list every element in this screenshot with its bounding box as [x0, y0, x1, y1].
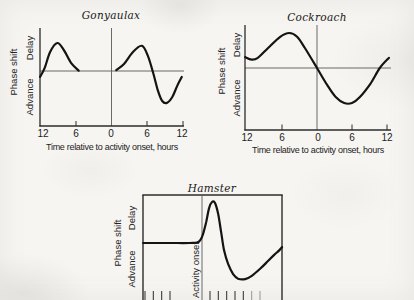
y-axis-label: Phase shift: [216, 48, 227, 95]
hamster-curve: [143, 201, 282, 279]
x-tick-label: 12: [176, 128, 187, 139]
chart-title: Hamster: [188, 182, 236, 194]
panel-gonyaulax: Gonyaulax Phase shift Delay Advance 12 6…: [0, 0, 207, 160]
advance-label: Advance: [126, 251, 137, 288]
x-axis-label: Time relative to activity onset, hours: [252, 145, 384, 155]
phase-response-figure: Gonyaulax Phase shift Delay Advance 12 6…: [0, 0, 414, 300]
gonyaulax-curve: [40, 43, 182, 103]
x-tick-label: 12: [241, 132, 252, 143]
delay-label: Delay: [231, 33, 242, 57]
x-tick-label: 6: [73, 128, 79, 139]
y-axis-label: Phase shift: [112, 220, 123, 267]
x-tick-label: 12: [381, 132, 392, 143]
x-tick-label: 0: [315, 132, 321, 143]
x-tick-label: 6: [144, 128, 150, 139]
activity-onset-label: Activity onset: [190, 242, 201, 298]
chart-title: Gonyaulax: [82, 9, 141, 21]
x-tick-label: 12: [37, 128, 48, 139]
panel-cockroach: Cockroach Phase shift Delay Advance 12 6…: [207, 0, 414, 160]
x-tick-label: 0: [108, 128, 114, 139]
delay-label: Delay: [126, 206, 137, 230]
delay-label: Delay: [24, 36, 35, 60]
y-axis-label: Phase shift: [8, 49, 19, 96]
chart-title: Cockroach: [287, 11, 347, 23]
advance-label: Advance: [24, 79, 35, 116]
x-tick-label: 6: [349, 132, 355, 143]
advance-label: Advance: [231, 80, 242, 117]
x-axis-label: Time relative to activity onset, hours: [46, 142, 178, 152]
panel-hamster: Hamster Phase shift Delay Advance Activi…: [100, 178, 310, 300]
x-tick-label: 6: [279, 132, 285, 143]
